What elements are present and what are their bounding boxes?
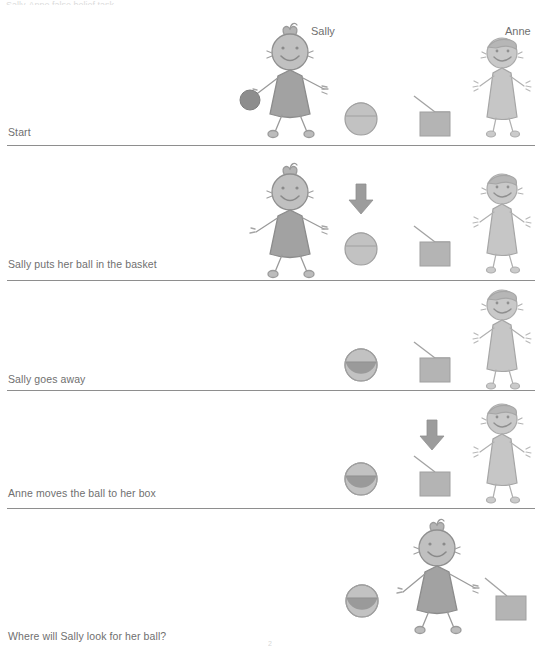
figure-sally: [248, 160, 338, 276]
scene-row-anne-moves-ball: Anne moves the ball to her box: [0, 398, 542, 510]
page-number: 2: [268, 640, 272, 647]
page-title-fragment: Sally-Anne false belief task: [6, 0, 306, 5]
scene-stage: [0, 516, 542, 647]
scene-label-start: Start: [8, 126, 31, 138]
scene-stage: Sally Anne: [0, 8, 542, 136]
figure-sally: [395, 516, 485, 632]
object-box: [409, 220, 455, 268]
figure-anne: [466, 170, 538, 274]
scene-label-where-will-sally-look: Where will Sally look for her ball?: [8, 630, 166, 642]
object-basket: [340, 340, 382, 386]
row-divider: [7, 280, 535, 281]
scene-row-where-will-sally-look: Where will Sally look for her ball?: [0, 516, 542, 647]
scene-label-sally-goes-away: Sally goes away: [8, 373, 85, 385]
object-basket: [340, 224, 382, 270]
illustration-page: Sally-Anne false belief task Sally Anne: [0, 0, 542, 647]
row-divider: [7, 508, 535, 509]
figure-anne: [466, 400, 538, 504]
figure-anne: [466, 34, 538, 138]
scene-row-start: Sally Anne: [0, 8, 542, 136]
object-basket: [340, 94, 382, 140]
object-basket: [340, 454, 382, 500]
figure-sally: [248, 20, 338, 136]
row-divider: [7, 145, 535, 146]
scene-row-sally-puts-ball: Sally puts her ball in the basket: [0, 152, 542, 274]
scene-label-anne-moves-ball: Anne moves the ball to her box: [8, 487, 156, 499]
scene-label-sally-puts-ball: Sally puts her ball in the basket: [8, 258, 157, 270]
object-box: [409, 450, 455, 498]
scene-row-sally-goes-away: Sally goes away: [0, 286, 542, 394]
arrow-down-icon: [419, 418, 445, 452]
arrow-down-icon: [348, 182, 374, 216]
object-box: [483, 574, 535, 624]
scene-stage: [0, 152, 542, 274]
row-divider: [7, 390, 535, 391]
object-basket: [341, 576, 383, 622]
figure-anne: [466, 286, 538, 390]
object-ball: [239, 88, 263, 112]
object-box: [409, 90, 455, 138]
object-box: [409, 336, 455, 384]
